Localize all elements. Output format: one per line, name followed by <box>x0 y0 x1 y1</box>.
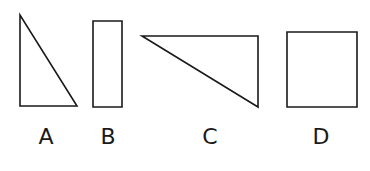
shape-label-d: D <box>301 126 341 148</box>
shape-label-c: C <box>190 126 230 148</box>
shapes-figure: A B C D <box>0 0 370 171</box>
shape-labels: A B C D <box>0 0 370 171</box>
shape-label-b: B <box>88 126 128 148</box>
shape-label-a: A <box>26 126 66 148</box>
